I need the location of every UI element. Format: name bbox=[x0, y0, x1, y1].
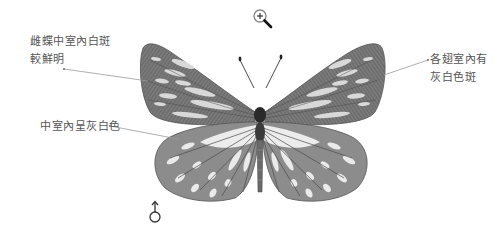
left-forewing bbox=[140, 44, 255, 125]
annotation-line: 灰白色斑 bbox=[430, 69, 488, 87]
male-symbol-icon bbox=[148, 199, 162, 225]
annotation-forewing-spaces: 各翅室內有 灰白色斑 bbox=[430, 51, 488, 87]
annotation-line: 雌蝶中室內白斑 bbox=[30, 33, 111, 51]
annotation-line: 較鮮明 bbox=[30, 51, 111, 69]
annotation-line: 中室內呈灰白色 bbox=[40, 118, 121, 136]
annotation-forewing-cell-spot: 雌蝶中室內白斑 較鮮明 bbox=[30, 33, 111, 69]
annotation-line: 各翅室內有 bbox=[430, 51, 488, 69]
annotation-hindwing-cell: 中室內呈灰白色 bbox=[40, 118, 121, 136]
leader-line-forewing-spaces bbox=[384, 60, 428, 75]
zoom-in-icon[interactable] bbox=[252, 8, 274, 30]
right-forewing bbox=[265, 44, 385, 125]
right-hindwing bbox=[263, 122, 367, 201]
left-hindwing bbox=[155, 122, 258, 201]
butterfly-illustration: 雌蝶中室內白斑 較鮮明 中室內呈灰白色 各翅室內有 灰白色斑 bbox=[0, 0, 502, 237]
leader-line-forewing-cell bbox=[64, 69, 148, 81]
